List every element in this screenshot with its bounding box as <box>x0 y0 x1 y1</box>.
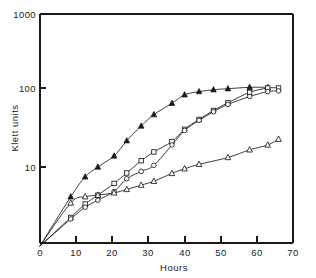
series-open-triangle <box>40 136 281 246</box>
chart-canvas: 1000 100 10 0 10 20 30 40 50 60 70 Hours… <box>0 0 316 278</box>
x-axis-ticks <box>40 236 293 243</box>
data-point-open-triangle <box>276 136 282 141</box>
data-point-open-circle <box>247 94 252 99</box>
data-point-open-circle <box>265 89 270 94</box>
data-series-layer <box>40 84 281 246</box>
data-point-open-circle <box>226 102 231 107</box>
axis-frame <box>40 14 293 243</box>
y-tick-label-10: 10 <box>25 162 36 173</box>
data-point-filled-triangle <box>151 111 157 116</box>
x-tick-label-60: 60 <box>251 247 262 258</box>
data-point-open-circle <box>170 143 175 148</box>
data-point-filled-triangle <box>169 100 175 105</box>
data-point-open-circle <box>182 128 187 133</box>
data-point-open-circle <box>152 163 157 168</box>
x-tick-label-20: 20 <box>106 247 117 258</box>
data-point-open-square <box>125 171 129 175</box>
x-axis-title: Hours <box>160 262 188 273</box>
x-tick-label-30: 30 <box>142 247 153 258</box>
x-tick-label-0: 0 <box>37 247 43 258</box>
series-open-circle <box>40 89 281 246</box>
x-tick-label-50: 50 <box>215 247 226 258</box>
x-tick-label-40: 40 <box>179 247 190 258</box>
y-tick-label-100: 100 <box>19 83 36 94</box>
data-point-open-circle <box>83 205 88 210</box>
data-point-open-circle <box>124 176 129 181</box>
series-open-square <box>40 86 281 246</box>
data-point-open-circle <box>68 217 73 222</box>
data-point-open-circle <box>96 198 101 203</box>
x-tick-label-70: 70 <box>287 247 298 258</box>
y-tick-label-1000: 1000 <box>13 9 36 20</box>
data-point-open-circle <box>211 109 216 114</box>
data-point-open-square <box>112 181 116 185</box>
series-line-open-circle <box>40 91 279 246</box>
data-point-open-square <box>152 150 156 154</box>
data-point-filled-triangle <box>247 84 253 89</box>
y-axis-title: Klett units <box>9 104 20 151</box>
growth-curve-figure: 1000 100 10 0 10 20 30 40 50 60 70 Hours… <box>0 0 316 278</box>
data-point-open-square <box>139 159 143 163</box>
data-point-filled-triangle <box>95 164 101 169</box>
data-point-open-circle <box>139 169 144 174</box>
data-point-open-circle <box>276 89 281 94</box>
y-axis-ticks <box>40 14 46 167</box>
data-point-open-circle <box>197 118 202 123</box>
series-line-open-triangle <box>40 139 279 246</box>
x-tick-label-10: 10 <box>70 247 81 258</box>
